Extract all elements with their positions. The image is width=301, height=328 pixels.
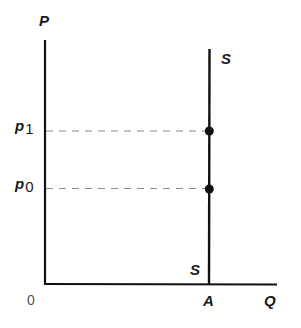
origin-label: 0 <box>27 293 35 307</box>
point-p0 <box>205 185 214 194</box>
x-axis <box>44 284 277 285</box>
supply-label-top: S <box>221 51 231 66</box>
price-label-p0: p0 <box>15 176 34 191</box>
price-subscript: 0 <box>25 178 33 195</box>
point-p1 <box>205 127 214 136</box>
supply-diagram <box>0 0 301 328</box>
price-symbol: p <box>15 175 24 192</box>
price-label-p1: p1 <box>15 118 34 133</box>
y-axis-label: P <box>39 13 49 28</box>
supply-label-bottom: S <box>190 262 200 277</box>
x-axis-label: Q <box>264 293 276 308</box>
supply-curve <box>209 49 210 284</box>
price-subscript: 1 <box>25 120 33 137</box>
price-symbol: p <box>15 117 24 134</box>
quantity-label-a: A <box>203 293 214 308</box>
